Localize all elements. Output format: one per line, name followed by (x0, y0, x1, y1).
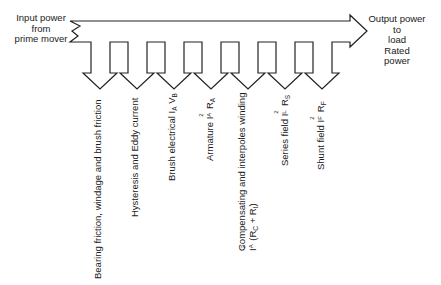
loss-label-brush: Brush electrical IA VB (167, 93, 177, 181)
loss-text: Brush electrical (166, 113, 177, 181)
input-line-1: Input power (10, 13, 72, 24)
symbol: R (315, 105, 326, 115)
loss-formula: I2A (RC + RI) (247, 93, 258, 251)
subscript: A (206, 113, 212, 117)
symbol: I (204, 117, 215, 120)
superscript: 2 (273, 110, 279, 113)
main-power-arrow (70, 15, 367, 89)
loss-text: Shunt field (315, 122, 326, 170)
sup-sub: 2A (247, 243, 258, 248)
loss-text: Compensating and interpoles winding (236, 93, 247, 251)
subscript: A (209, 98, 216, 102)
loss-label-core: Hysteresis and Eddy current (130, 98, 140, 217)
subscript: F (317, 116, 323, 120)
loss-label-shunt: Shunt field I2F RF (316, 101, 326, 170)
loss-text: Armature (204, 119, 215, 161)
symbol: R (204, 102, 215, 112)
loss-label-series: Series field I2L RS (280, 95, 290, 166)
subscript: A (171, 106, 178, 110)
subscript: A (248, 244, 254, 248)
symbol: I (166, 111, 177, 114)
superscript: 2 (198, 113, 204, 116)
formula-part: + R (247, 208, 258, 226)
sup-sub: 2L (280, 109, 290, 114)
superscript: 2 (309, 116, 315, 119)
subscript: F (320, 101, 327, 105)
loss-label-compensating: Compensating and interpoles winding I2A … (236, 93, 258, 251)
output-line-1: Output power (364, 14, 430, 25)
sup-sub: 2F (316, 115, 326, 120)
symbol: R (279, 99, 290, 109)
loss-text: Bearing friction, windage and brush fric… (92, 99, 103, 279)
output-power-label: Output power to load Rated power (364, 14, 430, 67)
loss-text: Hysteresis and Eddy current (129, 98, 140, 217)
symbol: I (315, 120, 326, 123)
symbol: V (166, 97, 177, 106)
formula-part: ) (247, 203, 258, 206)
loss-label-mechanical: Bearing friction, windage and brush fric… (93, 99, 103, 279)
subscript: C (252, 226, 259, 231)
subscript: I (252, 206, 259, 208)
subscript: S (284, 95, 291, 99)
input-line-3: prime mover (10, 34, 72, 45)
symbol: I (279, 114, 290, 117)
output-line-5: power (364, 56, 430, 67)
loss-label-armature: Armature I2A RA (205, 98, 215, 161)
subscript: B (171, 93, 178, 97)
formula-part: (R (247, 231, 258, 244)
superscript: 2 (240, 245, 246, 248)
loss-text: Series field (279, 116, 290, 166)
subscript: L (281, 110, 287, 113)
input-power-label: Input power from prime mover (10, 13, 72, 45)
symbol: I (247, 248, 258, 251)
sup-sub: 2A (205, 112, 215, 117)
